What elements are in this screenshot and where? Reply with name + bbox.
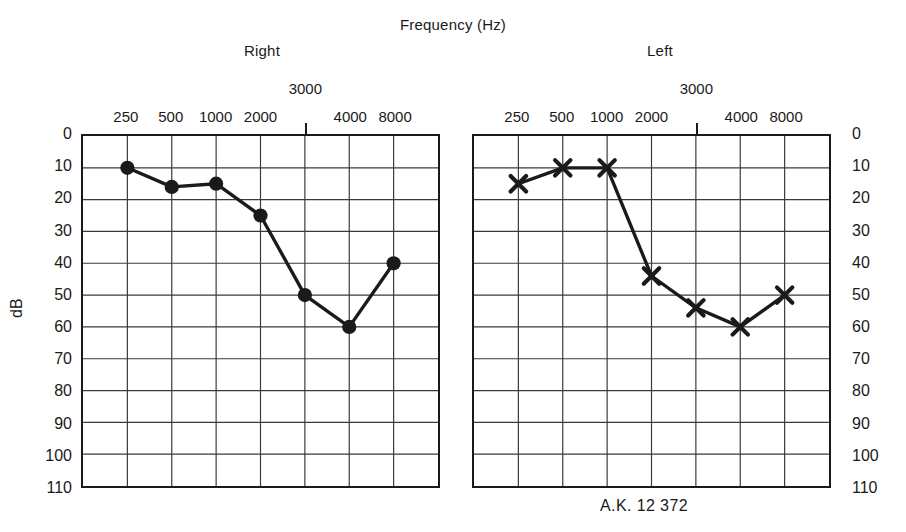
- right-ear-plot-area: [81, 134, 440, 488]
- y-tick-label-right-90: 90: [852, 415, 906, 433]
- data-point-circle: [342, 320, 356, 334]
- y-tick-label-left-20: 20: [16, 189, 72, 207]
- y-tick-label-left-50: 50: [16, 286, 72, 304]
- y-tick-label-right-40: 40: [852, 254, 906, 272]
- audiogram-figure: Frequency (Hz) Right Left dB 25050010002…: [0, 0, 906, 532]
- x-tick-label-right-4000: 4000: [334, 108, 367, 125]
- y-tick-label-left-30: 30: [16, 222, 72, 240]
- y-tick-label-right-20: 20: [852, 189, 906, 207]
- y-tick-label-right-110: 110: [852, 479, 906, 497]
- x-tick-label-left-4000: 4000: [725, 108, 758, 125]
- data-point-circle: [253, 208, 267, 222]
- figure-caption: A.K. 12 372: [600, 497, 688, 515]
- y-tick-label-right-50: 50: [852, 286, 906, 304]
- y-tick-label-left-100: 100: [16, 447, 72, 465]
- left-ear-panel: [472, 134, 831, 488]
- x-tick-label-right-250: 250: [113, 108, 138, 125]
- data-point-circle: [387, 256, 401, 270]
- y-tick-label-left-110: 110: [16, 479, 72, 497]
- x-tick-label-right-1000: 1000: [199, 108, 232, 125]
- x-tick-label-left-2000: 2000: [635, 108, 668, 125]
- data-point-circle: [209, 177, 223, 191]
- x-tick-label-right-500: 500: [158, 108, 183, 125]
- left-ear-plot-area: [472, 134, 831, 488]
- y-tick-label-left-40: 40: [16, 254, 72, 272]
- x-tick-label-left-500: 500: [549, 108, 574, 125]
- x-tick-label-left-1000: 1000: [590, 108, 623, 125]
- y-tick-label-left-90: 90: [16, 415, 72, 433]
- x-tick-label-left-3000: 3000: [680, 80, 713, 97]
- y-tick-label-right-80: 80: [852, 382, 906, 400]
- left-panel-title: Left: [570, 42, 750, 59]
- y-tick-label-left-10: 10: [16, 157, 72, 175]
- frequency-axis-title: Frequency (Hz): [0, 16, 906, 33]
- y-tick-label-right-30: 30: [852, 222, 906, 240]
- x-tick-label-right-2000: 2000: [244, 108, 277, 125]
- x-tick-label-left-250: 250: [504, 108, 529, 125]
- right-panel-title: Right: [172, 42, 352, 59]
- y-tick-label-left-0: 0: [16, 125, 72, 143]
- data-point-circle: [298, 288, 312, 302]
- y-tick-label-right-70: 70: [852, 350, 906, 368]
- y-tick-label-left-80: 80: [16, 382, 72, 400]
- data-point-circle: [165, 180, 179, 194]
- left-ear-plot-svg: [474, 136, 829, 486]
- y-tick-label-right-0: 0: [852, 125, 906, 143]
- y-tick-label-right-10: 10: [852, 157, 906, 175]
- data-point-circle: [120, 161, 134, 175]
- y-tick-label-right-60: 60: [852, 318, 906, 336]
- x-tick-label-right-3000: 3000: [289, 80, 322, 97]
- y-tick-label-left-60: 60: [16, 318, 72, 336]
- y-tick-label-left-70: 70: [16, 350, 72, 368]
- x-tick-label-left-8000: 8000: [769, 108, 802, 125]
- x-tick-mark-left-3000: [696, 123, 698, 135]
- right-ear-plot-svg: [83, 136, 438, 486]
- x-tick-label-right-8000: 8000: [378, 108, 411, 125]
- x-tick-mark-right-3000: [305, 123, 307, 135]
- y-tick-label-right-100: 100: [852, 447, 906, 465]
- right-ear-panel: [81, 134, 440, 488]
